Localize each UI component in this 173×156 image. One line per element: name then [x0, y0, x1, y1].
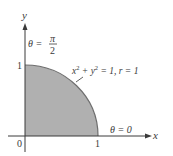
x-axis-label: x [152, 129, 158, 141]
theta-pi-half-den: 2 [50, 45, 55, 56]
x-axis-arrow-icon [145, 134, 152, 139]
quarter-circle-diagram: y x 0 1 1 θ = π 2 x2 + y2 = 1, r = 1 θ =… [0, 0, 173, 156]
origin-label: 0 [17, 138, 22, 149]
x-tick-1-label: 1 [95, 138, 100, 149]
y-axis-label: y [21, 9, 27, 21]
y-axis-arrow-icon [23, 23, 28, 30]
circle-equation: x2 + y2 = 1, r = 1 [71, 64, 138, 76]
theta-pi-half-lhs: θ = [28, 38, 42, 49]
theta-zero-label: θ = 0 [110, 124, 132, 135]
y-tick-1-label: 1 [17, 60, 22, 71]
equation-leader-line [76, 77, 83, 82]
theta-pi-half-num: π [50, 33, 56, 44]
